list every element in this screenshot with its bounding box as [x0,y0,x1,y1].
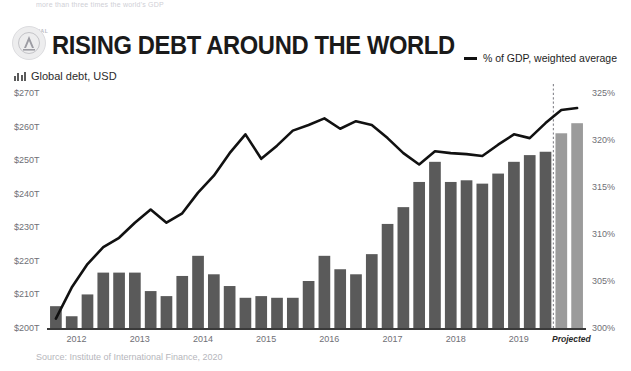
x-axis-tick: 2016 [319,334,339,344]
x-axis-tick: 2018 [446,334,466,344]
y-axis-left-tick: $200T [14,323,40,333]
chart-bar [271,298,283,328]
chart-bar [382,224,394,328]
chart-bar [334,269,346,328]
y-axis-right-tick: 300% [592,323,615,333]
chart-bar [508,162,520,328]
x-axis-line [47,328,586,330]
chart-bar [492,174,504,328]
projected-region-label: Projected [552,334,591,344]
chart-bar [429,162,441,328]
legend-line-label: % of GDP, weighted average [483,52,617,64]
chart-bar [145,291,157,328]
chart-bar [255,296,267,328]
chart-bar [287,298,299,328]
cropped-top-text: more than three times the world's GDP [36,1,336,10]
chart-bar [192,256,204,328]
page-title: RISING DEBT AROUND THE WORLD [52,31,455,60]
y-axis-right-tick: 310% [592,229,615,239]
chart-bar [366,254,378,328]
chart-bar [461,180,473,328]
y-axis-left-tick: $260T [14,122,40,132]
chart-bar [398,207,410,328]
legend-line-swatch [464,57,477,60]
chart-bar [129,273,141,328]
chart-bar [413,182,425,328]
chart-legend: % of GDP, weighted average [464,52,617,64]
y-axis-right-tick: 315% [592,182,615,192]
chart-bar [555,133,567,328]
chart-bar [176,276,188,328]
y-axis-left-tick: $230T [14,222,40,232]
chart-bar [476,184,488,328]
chart-bar [97,273,109,328]
x-axis-tick: 2014 [193,334,213,344]
y-axis-left-tick: $270T [14,88,40,98]
chart-bar [524,155,536,328]
x-axis-tick: 2013 [130,334,150,344]
chart-bar [540,152,552,328]
y-axis-left-tick: $220T [14,256,40,266]
brand-logo: SIGNAL [12,26,46,60]
chart-bar [208,274,220,328]
chart-canvas [0,84,631,329]
source-note: Source: Institute of International Finan… [36,352,223,362]
y-axis-left-tick: $240T [14,189,40,199]
y-axis-right-tick: 325% [592,88,615,98]
chart-bar [66,316,78,328]
chart-header: SIGNAL RISING DEBT AROUND THE WORLD Glob… [0,14,631,74]
chart-bar [445,182,457,328]
y-axis-right-tick: 320% [592,135,615,145]
chart-bar [240,298,252,328]
x-axis-tick: 2015 [256,334,276,344]
y-axis-left-tick: $210T [14,289,40,299]
logo-monogram-icon [12,26,46,60]
chart-bar [113,273,125,328]
chart-bar [82,294,94,328]
chart-bar [161,296,173,328]
y-axis-right-tick: 305% [592,276,615,286]
chart-bar [350,274,362,328]
chart-bar [319,256,331,328]
x-axis-tick: 2017 [382,334,402,344]
chart-bar [571,123,583,328]
x-axis-tick: 2019 [509,334,529,344]
chart-plot-area [0,84,631,329]
y-axis-left-tick: $250T [14,155,40,165]
chart-bar [224,286,236,328]
bar-chart-icon [14,71,26,81]
x-axis-tick: 2012 [67,334,87,344]
subtitle-row: Global debt, USD [14,70,117,82]
chart-subtitle: Global debt, USD [31,70,117,82]
chart-bar [303,281,315,328]
